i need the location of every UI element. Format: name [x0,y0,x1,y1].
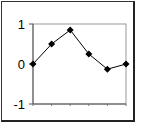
y-tick-label: 0 [18,57,25,72]
y-tick-label: -1 [13,97,25,112]
y-tick-labels: 10-1 [13,17,25,112]
y-tick-label: 1 [18,17,25,32]
diamond-marker [123,61,130,68]
plot-area [33,24,126,104]
data-series [30,27,130,73]
chart-axes [29,24,126,106]
line-chart: 10-1 [0,0,142,125]
series-line [33,30,126,69]
